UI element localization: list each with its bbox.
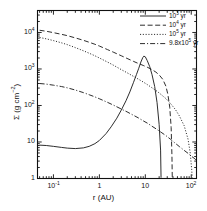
legend-entry: 104 yr xyxy=(169,21,186,28)
y-axis-label: Σ (g cm−2) xyxy=(12,84,21,120)
legend-label-suffix: yr xyxy=(179,21,186,28)
y-axis-label-exponent: −2 xyxy=(10,87,16,93)
y-axis-label-suffix: ) xyxy=(12,84,21,87)
tick-label: 10-1 xyxy=(47,182,59,189)
curve-dashed xyxy=(40,30,173,177)
legend-label-mantissa: 9.8x10 xyxy=(169,39,189,46)
tick-label: 10 xyxy=(27,137,35,144)
tick-label: 103 xyxy=(24,64,35,71)
legend-entry: 105 yr xyxy=(169,30,186,37)
curve-dashdot xyxy=(40,84,197,161)
data-curves xyxy=(40,30,197,177)
y-axis-label-prefix: Σ (g cm xyxy=(12,93,21,120)
legend-label-suffix: yr xyxy=(179,30,186,37)
figure-root: r (AU) Σ (g cm−2) 10-1110102110102103104… xyxy=(0,0,207,211)
curve-solid xyxy=(40,56,161,178)
x-axis-label: r (AU) xyxy=(0,193,207,202)
tick-label: 1 xyxy=(97,182,101,189)
legend-entry: 9.8x105 yr xyxy=(169,39,198,46)
legend-label-suffix: yr xyxy=(191,39,198,46)
legend-label-suffix: yr xyxy=(179,12,186,19)
tick-label: 102 xyxy=(24,101,35,108)
tick-label: 10 xyxy=(141,182,149,189)
legend-entry: 103 yr xyxy=(169,12,186,19)
tick-label: 1 xyxy=(31,174,35,181)
tick-label: 102 xyxy=(186,182,197,189)
tick-label: 104 xyxy=(24,28,35,35)
